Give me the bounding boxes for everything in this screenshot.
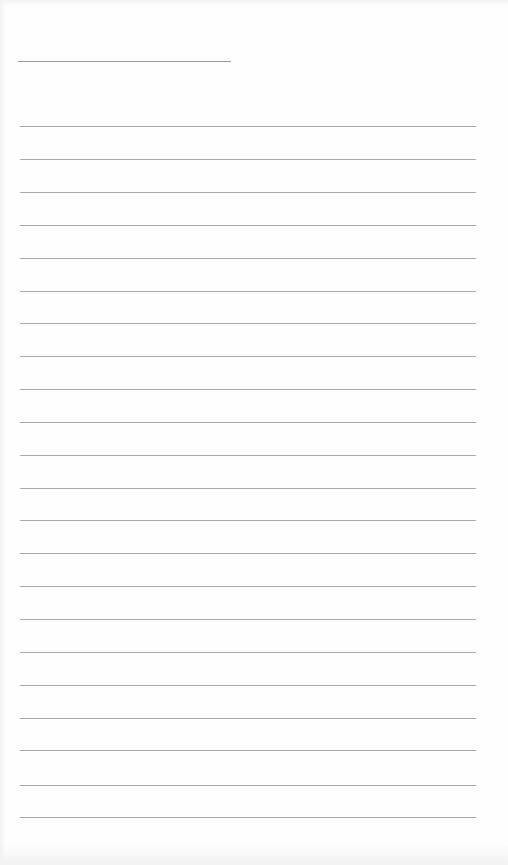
ruled-line xyxy=(20,619,476,620)
ruled-line xyxy=(20,553,476,554)
scan-edge-bottom xyxy=(0,843,508,865)
ruled-line xyxy=(20,323,476,324)
ruled-line xyxy=(20,356,476,357)
ruled-line xyxy=(20,225,476,226)
ruled-line xyxy=(20,291,476,292)
scan-edge-top xyxy=(0,0,508,6)
ruled-line xyxy=(20,126,476,127)
ruled-line xyxy=(20,750,476,751)
ruled-line xyxy=(20,422,476,423)
ruled-line xyxy=(20,652,476,653)
ruled-line xyxy=(20,785,476,786)
ruled-line xyxy=(20,159,476,160)
ruled-line xyxy=(20,455,476,456)
ruled-line xyxy=(20,817,476,818)
ruled-line xyxy=(20,258,476,259)
scan-edge-left xyxy=(0,0,6,865)
lined-page xyxy=(0,0,508,865)
ruled-line xyxy=(20,488,476,489)
ruled-line xyxy=(20,586,476,587)
header-name-line xyxy=(18,61,231,62)
ruled-line xyxy=(20,718,476,719)
ruled-line xyxy=(20,520,476,521)
ruled-line xyxy=(20,389,476,390)
ruled-line xyxy=(20,192,476,193)
ruled-line xyxy=(20,685,476,686)
